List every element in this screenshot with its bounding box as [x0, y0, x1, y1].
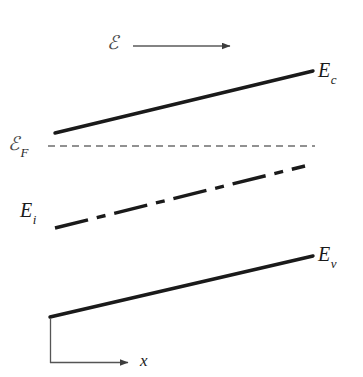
band-diagram-canvas: [0, 0, 363, 377]
valence-band-label: Ev: [318, 244, 336, 267]
conduction-band-subscript: c: [331, 72, 337, 87]
fermi-level-subscript: F: [21, 145, 29, 160]
x-axis-symbol: x: [140, 351, 148, 370]
intrinsic-level-line: [55, 166, 305, 228]
electric-field-label: ℰ: [107, 33, 119, 52]
script-e-glyph: ℰ: [107, 31, 119, 53]
intrinsic-level-subscript: i: [33, 212, 37, 227]
valence-band-symbol: E: [318, 243, 330, 265]
band-diagram-figure: ℰ Ec ℰF Ei Ev x: [0, 0, 363, 377]
x-axis-label: x: [140, 352, 148, 369]
valence-band-subscript: v: [331, 256, 337, 271]
conduction-band-symbol: E: [318, 59, 330, 81]
conduction-band-line: [55, 71, 313, 133]
fermi-script-e-glyph: ℰ: [8, 132, 20, 154]
conduction-band-label: Ec: [318, 60, 336, 83]
fermi-level-label: ℰF: [8, 134, 28, 156]
intrinsic-level-symbol: E: [20, 199, 32, 221]
intrinsic-level-label: Ei: [20, 200, 36, 223]
valence-band-line: [50, 256, 313, 317]
